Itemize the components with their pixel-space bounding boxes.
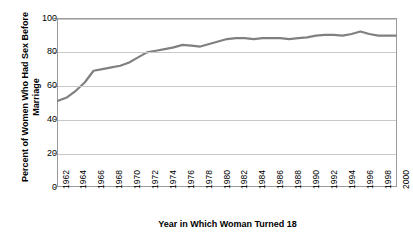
x-tick-label: 1978 <box>204 159 214 189</box>
x-tick-label: 1998 <box>383 159 393 189</box>
x-tick-label: 2000 <box>401 159 411 189</box>
x-tick-label: 1964 <box>78 159 88 189</box>
chart-container: Percent of Women Who Had Sex Before Marr… <box>0 0 413 236</box>
x-tick-label: 1984 <box>257 159 267 189</box>
x-tick-label: 1980 <box>222 159 232 189</box>
x-axis-ticks: 1962196419661968197019721974197619781980… <box>0 0 413 236</box>
x-tick-label: 1972 <box>150 159 160 189</box>
x-axis-title: Year in Which Woman Turned 18 <box>57 219 398 229</box>
x-tick-label: 1992 <box>329 159 339 189</box>
x-tick-label: 1970 <box>132 159 142 189</box>
x-tick-label: 1990 <box>311 159 321 189</box>
x-tick-label: 1962 <box>61 159 71 189</box>
x-tick-label: 1986 <box>275 159 285 189</box>
x-tick-label: 1994 <box>347 159 357 189</box>
x-tick-label: 1974 <box>168 159 178 189</box>
x-tick-label: 1966 <box>96 159 106 189</box>
x-tick-label: 1976 <box>186 159 196 189</box>
x-tick-label: 1968 <box>114 159 124 189</box>
x-tick-label: 1988 <box>293 159 303 189</box>
x-tick-label: 1982 <box>239 159 249 189</box>
x-tick-label: 1996 <box>365 159 375 189</box>
